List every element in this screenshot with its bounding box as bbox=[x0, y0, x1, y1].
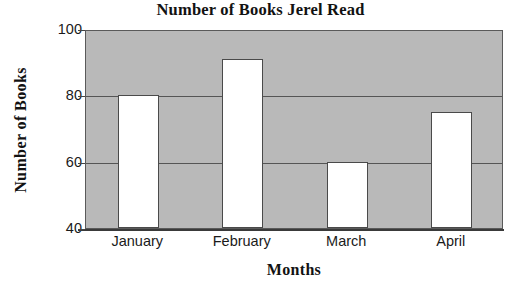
y-tick-label-80: 80 bbox=[46, 88, 82, 103]
y-axis-title-container: Number of Books bbox=[6, 30, 36, 229]
y-axis-tick-labels: 406080100 bbox=[38, 0, 82, 299]
x-axis-baseline bbox=[78, 229, 504, 231]
y-tick-label-40: 40 bbox=[46, 221, 82, 236]
bar-march bbox=[327, 162, 368, 228]
y-tick-mark-40 bbox=[78, 229, 85, 230]
y-tick-mark-80 bbox=[78, 96, 85, 97]
y-tick-label-60: 60 bbox=[46, 155, 82, 170]
x-axis-title: Months bbox=[85, 261, 503, 279]
bar-chart: Number of Books Jerel Read Number of Boo… bbox=[0, 0, 521, 299]
y-axis-title: Number of Books bbox=[12, 67, 30, 193]
y-tick-label-100: 100 bbox=[46, 22, 82, 37]
x-tick-label-march: March bbox=[294, 233, 399, 249]
bar-january bbox=[118, 95, 159, 228]
x-tick-label-january: January bbox=[85, 233, 190, 249]
plot-area bbox=[85, 30, 503, 229]
x-tick-label-april: April bbox=[399, 233, 504, 249]
bar-february bbox=[222, 59, 263, 228]
y-tick-mark-60 bbox=[78, 163, 85, 164]
x-tick-label-february: February bbox=[190, 233, 295, 249]
bar-april bbox=[431, 112, 472, 228]
y-tick-mark-100 bbox=[78, 30, 85, 31]
